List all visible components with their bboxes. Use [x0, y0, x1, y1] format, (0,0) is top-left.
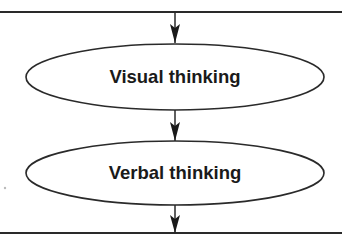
arrow-verbal-to-bottom	[170, 205, 180, 233]
node-visual-thinking: Visual thinking	[26, 44, 324, 110]
flowchart-diagram: Visual thinking Verbal thinking	[0, 0, 342, 244]
node-label: Visual thinking	[109, 66, 240, 87]
node-label: Verbal thinking	[109, 162, 242, 183]
arrow-visual-to-verbal	[170, 110, 180, 141]
speck-artifact	[4, 187, 6, 189]
arrow-top-to-visual	[170, 12, 180, 43]
node-verbal-thinking: Verbal thinking	[26, 141, 324, 205]
